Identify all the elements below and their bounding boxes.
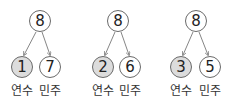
yeonsu-node: 3 bbox=[170, 56, 192, 78]
minju-label: 민주 bbox=[36, 81, 64, 98]
yeonsu-label: 연수 bbox=[89, 81, 117, 98]
number-bond-2: 8 2 6 연수 민주 bbox=[79, 0, 151, 101]
yeonsu-label: 연수 bbox=[167, 81, 195, 98]
minju-node: 7 bbox=[39, 56, 61, 78]
minju-label: 민주 bbox=[116, 81, 144, 98]
number-bond-1: 8 1 7 연수 민주 bbox=[0, 0, 72, 101]
total-node: 8 bbox=[107, 10, 129, 32]
minju-label: 민주 bbox=[196, 81, 224, 98]
yeonsu-node: 1 bbox=[11, 56, 33, 78]
total-node: 8 bbox=[29, 10, 51, 32]
minju-node: 5 bbox=[199, 56, 221, 78]
total-node: 8 bbox=[185, 10, 207, 32]
number-bond-3: 8 3 5 연수 민주 bbox=[157, 0, 227, 101]
minju-node: 6 bbox=[119, 56, 141, 78]
yeonsu-label: 연수 bbox=[8, 81, 36, 98]
yeonsu-node: 2 bbox=[92, 56, 114, 78]
